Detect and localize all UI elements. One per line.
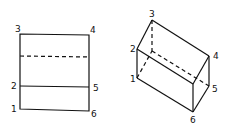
- diagram-canvas: 3 4 2 5 1 6 3 2 1 4 5 6: [0, 0, 240, 128]
- right-label-5: 5: [212, 84, 218, 94]
- left-dashed-line: [20, 56, 89, 57]
- left-solid-line: [20, 86, 89, 87]
- left-label-3: 3: [15, 24, 21, 34]
- right-figure: 3 2 1 4 5 6: [130, 9, 219, 125]
- left-rectangle: [20, 34, 89, 111]
- left-label-5: 5: [93, 83, 99, 93]
- right-label-1: 1: [130, 74, 136, 84]
- right-label-2: 2: [130, 44, 136, 54]
- edge-5-6: [193, 86, 209, 112]
- left-label-6: 6: [91, 109, 97, 119]
- left-figure: 3 4 2 5 1 6: [11, 24, 99, 119]
- hidden-edge-5: [152, 51, 209, 86]
- edge-3-4: [152, 20, 209, 56]
- edge-2-3: [137, 20, 152, 49]
- right-label-4: 4: [213, 51, 219, 61]
- left-label-1: 1: [11, 104, 17, 114]
- edge-top-front: [137, 49, 193, 84]
- right-label-6: 6: [190, 115, 196, 125]
- left-label-4: 4: [90, 25, 96, 35]
- hidden-edge-1: [137, 51, 152, 78]
- left-label-2: 2: [11, 81, 17, 91]
- edge-4-front: [193, 56, 209, 84]
- right-label-3: 3: [149, 9, 155, 19]
- edge-1-6: [137, 78, 193, 112]
